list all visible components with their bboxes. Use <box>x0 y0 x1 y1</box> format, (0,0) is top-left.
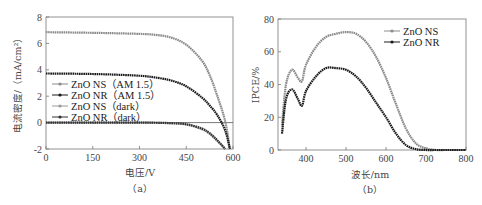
series-line <box>282 32 466 150</box>
panel-a-caption: （a） <box>127 183 153 194</box>
panel-b-curves <box>282 32 466 150</box>
x-tick-label: 300 <box>132 152 147 163</box>
figure: -202468 0150300450600 ZnO NS（AM 1.5）ZnO … <box>0 0 482 205</box>
panel-b-x-axis-label: 波长/nm <box>351 169 389 180</box>
y-tick-label: 80 <box>264 14 274 25</box>
panel-a-x-ticks: 0150300450600 <box>44 146 241 163</box>
panel-b: 020406080 400500600700800 ZnO NSZnO NR 波… <box>250 14 474 196</box>
y-tick-label: 8 <box>37 12 42 23</box>
x-tick-label: 800 <box>459 153 474 164</box>
y-tick-label: 2 <box>37 91 42 102</box>
panel-a-legend: ZnO NS（AM 1.5）ZnO NR（AM 1.5）ZnO NS（dark）… <box>52 79 160 123</box>
series-line <box>46 123 225 149</box>
y-tick-label: 6 <box>37 38 42 49</box>
legend-marker-icon <box>58 82 61 85</box>
panel-b-y-ticks: 020406080 <box>264 14 281 156</box>
panel-a-y-axis-label: 电流密度/（mA/cm²） <box>12 33 23 133</box>
x-tick-label: 450 <box>179 152 194 163</box>
panel-b-caption: （b） <box>357 184 383 195</box>
legend-label: ZnO NR <box>403 37 439 48</box>
legend-label: ZnO NS <box>403 26 438 37</box>
legend-label: ZnO NS（dark） <box>71 101 145 112</box>
legend-marker-icon <box>390 29 393 32</box>
panel-a: -202468 0150300450600 ZnO NS（AM 1.5）ZnO … <box>12 12 241 195</box>
legend-label: ZnO NR（AM 1.5） <box>71 90 160 101</box>
x-tick-label: 700 <box>419 153 434 164</box>
y-tick-label: 20 <box>264 112 274 123</box>
y-tick-label: 0 <box>37 117 42 128</box>
series-line <box>282 67 466 150</box>
panel-b-x-ticks: 400500600700800 <box>299 147 474 164</box>
x-tick-label: 400 <box>299 153 314 164</box>
x-tick-label: 0 <box>44 152 49 163</box>
x-tick-label: 600 <box>379 153 394 164</box>
legend-label: ZnO NR（dark） <box>71 112 146 123</box>
legend-marker-icon <box>390 40 393 43</box>
legend-marker-icon <box>58 115 61 118</box>
y-tick-label: 4 <box>37 64 42 75</box>
panel-b-y-axis-label: IPCE/% <box>250 67 261 104</box>
legend-marker-icon <box>58 93 61 96</box>
legend-marker-icon <box>58 104 61 107</box>
x-tick-label: 500 <box>339 153 354 164</box>
panel-b-legend: ZnO NSZnO NR <box>384 26 439 48</box>
y-tick-label: 60 <box>264 46 274 57</box>
panel-a-x-axis-label: 电压/V <box>125 167 155 178</box>
y-tick-label: -2 <box>34 144 42 155</box>
x-tick-label: 150 <box>85 152 100 163</box>
y-tick-label: 40 <box>264 79 274 90</box>
y-tick-label: 0 <box>269 145 274 156</box>
x-tick-label: 600 <box>226 152 241 163</box>
legend-label: ZnO NS（AM 1.5） <box>71 79 159 90</box>
